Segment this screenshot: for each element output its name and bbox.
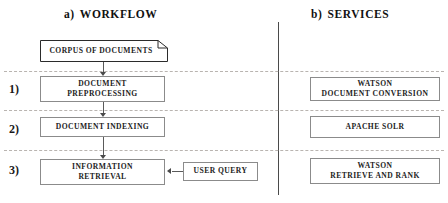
node-document-preprocessing-label-line-2: PREPROCESSING [67,89,137,99]
column-title-workflow: WORKFLOW [80,8,158,20]
stage-index-1: 1) [9,82,19,97]
node-watson-retrieve-and-rank-label-line-2: RETRIEVE AND RANK [330,171,420,181]
node-watson-document-conversion: WATSON DOCUMENT CONVERSION [310,77,440,101]
stage-separator-2 [4,110,444,111]
node-corpus-label: CORPUS OF DOCUMENTS [49,46,152,56]
node-apache-solr-label: APACHE SOLR [345,122,404,132]
stage-separator-1 [4,71,444,72]
node-document-preprocessing: DOCUMENT PREPROCESSING [40,76,165,102]
connector-user-query-to-retrieval [172,171,183,172]
node-information-retrieval-label-line-1: INFORMATION [72,162,133,172]
column-title-services: SERVICES [327,8,389,20]
connector-indexing-to-retrieval [103,137,104,157]
node-watson-document-conversion-label-line-1: WATSON [357,79,392,89]
column-tag-services: b) [311,8,322,20]
column-heading-services: b)SERVICES [311,8,389,20]
node-watson-retrieve-and-rank-label-line-1: WATSON [357,161,392,171]
stage-index-2: 2) [9,122,19,137]
stage-index-3: 3) [9,163,19,178]
node-user-query-label: USER QUERY [194,166,248,176]
node-watson-retrieve-and-rank: WATSON RETRIEVE AND RANK [310,158,440,184]
node-document-indexing: DOCUMENT INDEXING [40,117,165,137]
arrowhead-left-icon-user-query-to-retrieval [167,168,171,174]
stage-separator-3 [4,150,444,151]
node-document-indexing-label: DOCUMENT INDEXING [56,122,149,132]
node-user-query: USER QUERY [183,162,258,181]
node-corpus-of-documents: CORPUS OF DOCUMENTS [40,40,168,62]
node-document-preprocessing-label-line-1: DOCUMENT [78,79,127,89]
workflow-services-figure: a)WORKFLOW b)SERVICES 1) 2) 3) CORPUS OF… [0,0,448,203]
column-tag-workflow: a) [64,8,75,20]
column-heading-workflow: a)WORKFLOW [64,8,157,20]
node-information-retrieval: INFORMATION RETRIEVAL [40,159,165,185]
node-information-retrieval-label-line-2: RETRIEVAL [78,172,126,182]
column-divider-line [278,22,279,195]
node-watson-document-conversion-label-line-2: DOCUMENT CONVERSION [322,89,429,99]
node-apache-solr: APACHE SOLR [310,116,440,138]
